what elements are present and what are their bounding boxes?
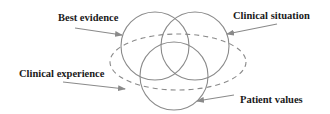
clinical-experience-arrow xyxy=(63,82,125,89)
evidence-based-practice-venn-diagram: Best evidence Clinical situation Clinica… xyxy=(0,0,330,114)
best-evidence-circle xyxy=(121,12,189,80)
patient-values-arrow xyxy=(197,95,234,101)
best-evidence-label: Best evidence xyxy=(58,12,118,24)
clinical-situation-arrow xyxy=(227,24,277,34)
clinical-situation-circle xyxy=(161,12,229,80)
patient-values-label: Patient values xyxy=(240,94,303,106)
clinical-situation-label: Clinical situation xyxy=(233,10,310,22)
clinical-experience-label: Clinical experience xyxy=(19,68,104,80)
patient-values-circle xyxy=(140,42,208,110)
best-evidence-arrow xyxy=(75,28,122,35)
